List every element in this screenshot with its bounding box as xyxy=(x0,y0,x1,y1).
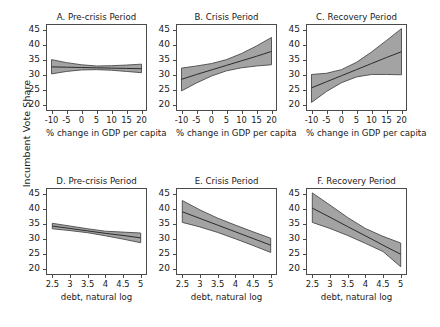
y-tick-mark xyxy=(43,209,46,210)
y-tick-label: 45 xyxy=(18,188,40,198)
y-tick-label: 25 xyxy=(148,248,170,258)
x-axis-label-b: % change in GDP per capita xyxy=(176,128,277,138)
x-tick-mark xyxy=(330,275,331,278)
y-tick-label: 40 xyxy=(278,39,300,49)
plot-area-f xyxy=(306,188,407,275)
panel-a: A. Pre-crisis Period202530354045-10-5051… xyxy=(46,24,147,111)
y-tick-mark xyxy=(303,30,306,31)
y-tick-mark xyxy=(303,269,306,270)
panel-title-b: B. Crisis Period xyxy=(176,12,277,22)
y-tick-label: 20 xyxy=(148,99,170,109)
panel-title-a: A. Pre-crisis Period xyxy=(46,12,147,22)
x-tick-mark xyxy=(97,111,98,114)
x-tick-mark xyxy=(182,111,183,114)
y-tick-label: 25 xyxy=(18,84,40,94)
y-tick-mark xyxy=(43,194,46,195)
panel-title-e: E. Crisis Period xyxy=(176,176,277,186)
x-tick-label: 20 xyxy=(388,115,416,125)
y-tick-label: 20 xyxy=(18,263,40,273)
x-tick-mark xyxy=(312,275,313,278)
y-tick-label: 25 xyxy=(278,84,300,94)
plot-area-d xyxy=(46,188,147,275)
x-axis-label-a: % change in GDP per capita xyxy=(46,128,147,138)
x-tick-label: 5 xyxy=(257,279,285,289)
y-tick-mark xyxy=(303,105,306,106)
x-tick-mark xyxy=(123,275,124,278)
y-tick-mark xyxy=(43,30,46,31)
x-tick-mark xyxy=(327,111,328,114)
y-tick-mark xyxy=(303,254,306,255)
x-tick-mark xyxy=(142,111,143,114)
y-tick-label: 35 xyxy=(18,54,40,64)
ci-polygon xyxy=(182,201,270,253)
x-tick-mark xyxy=(235,275,236,278)
x-tick-mark xyxy=(242,111,243,114)
y-tick-label: 35 xyxy=(148,218,170,228)
x-tick-mark xyxy=(387,111,388,114)
y-tick-label: 20 xyxy=(148,263,170,273)
y-tick-mark xyxy=(173,105,176,106)
y-tick-label: 45 xyxy=(148,24,170,34)
y-tick-label: 45 xyxy=(18,24,40,34)
x-tick-mark xyxy=(197,111,198,114)
x-tick-mark xyxy=(127,111,128,114)
y-tick-label: 25 xyxy=(148,84,170,94)
y-tick-mark xyxy=(303,224,306,225)
y-tick-label: 40 xyxy=(18,39,40,49)
x-tick-mark xyxy=(52,111,53,114)
confidence-band-c xyxy=(307,25,406,110)
y-tick-label: 40 xyxy=(18,203,40,213)
y-tick-mark xyxy=(43,90,46,91)
y-tick-label: 40 xyxy=(148,203,170,213)
y-tick-mark xyxy=(43,105,46,106)
ci-polygon xyxy=(312,193,400,267)
y-tick-label: 20 xyxy=(278,263,300,273)
confidence-band-e xyxy=(177,189,276,274)
panel-d: D. Pre-crisis Period2025303540452.533.54… xyxy=(46,188,147,275)
y-tick-mark xyxy=(303,209,306,210)
x-tick-mark xyxy=(342,111,343,114)
y-tick-mark xyxy=(43,269,46,270)
y-tick-mark xyxy=(173,209,176,210)
y-tick-mark xyxy=(43,75,46,76)
x-tick-mark xyxy=(52,275,53,278)
x-tick-mark xyxy=(253,275,254,278)
y-tick-mark xyxy=(173,194,176,195)
y-tick-mark xyxy=(43,239,46,240)
y-tick-mark xyxy=(173,75,176,76)
y-tick-label: 45 xyxy=(278,24,300,34)
x-tick-mark xyxy=(257,111,258,114)
y-tick-label: 20 xyxy=(278,99,300,109)
panel-b: B. Crisis Period202530354045-10-50510152… xyxy=(176,24,277,111)
y-tick-mark xyxy=(173,90,176,91)
y-tick-mark xyxy=(303,45,306,46)
x-tick-mark xyxy=(365,275,366,278)
confidence-band-b xyxy=(177,25,276,110)
y-tick-mark xyxy=(43,254,46,255)
y-tick-mark xyxy=(43,60,46,61)
x-tick-label: 5 xyxy=(127,279,155,289)
confidence-band-f xyxy=(307,189,406,274)
ci-polygon xyxy=(312,29,402,103)
y-tick-mark xyxy=(43,45,46,46)
x-tick-mark xyxy=(271,275,272,278)
y-tick-label: 30 xyxy=(148,233,170,243)
x-tick-mark xyxy=(357,111,358,114)
y-tick-mark xyxy=(303,75,306,76)
y-tick-mark xyxy=(303,60,306,61)
y-tick-mark xyxy=(43,224,46,225)
y-tick-mark xyxy=(173,45,176,46)
x-tick-mark xyxy=(212,111,213,114)
fit-line xyxy=(312,208,400,254)
panel-title-d: D. Pre-crisis Period xyxy=(46,176,147,186)
y-tick-label: 25 xyxy=(278,248,300,258)
panel-title-c: C. Recovery Period xyxy=(306,12,407,22)
x-tick-mark xyxy=(402,111,403,114)
plot-area-c xyxy=(306,24,407,111)
fit-line xyxy=(182,212,270,245)
x-tick-mark xyxy=(272,111,273,114)
panel-f: F. Recovery Period2025303540452.533.544.… xyxy=(306,188,407,275)
x-tick-mark xyxy=(182,275,183,278)
y-tick-mark xyxy=(173,269,176,270)
y-tick-label: 35 xyxy=(278,218,300,228)
